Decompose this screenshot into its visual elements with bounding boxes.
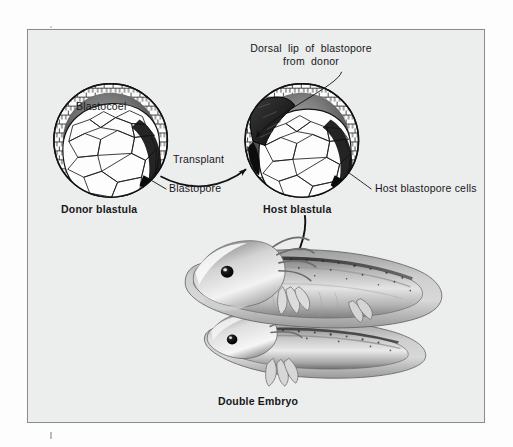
primary-larva-eye-highlight [223, 268, 227, 271]
figure-root: Dorsal lip of blastopore from donor Blas… [0, 0, 513, 447]
label-dorsal-lip-line2: from donor [221, 55, 401, 68]
secondary-larva-forelimb [266, 358, 298, 386]
leader-host-blastopore-cells [347, 171, 372, 189]
label-host-blastula: Host blastula [263, 203, 332, 216]
label-blastocoel: Blastocoel [76, 100, 126, 113]
primary-larva [185, 237, 442, 328]
secondary-larva-eye [227, 334, 238, 344]
stray-mark-bottom [50, 432, 52, 439]
label-double-embryo: Double Embryo [173, 395, 343, 408]
primary-larva-eye [221, 266, 234, 278]
double-embryo-illustration [185, 237, 442, 386]
diagram-canvas [28, 30, 484, 422]
label-donor-blastula: Donor blastula [61, 203, 137, 216]
secondary-larva-eye-highlight [229, 337, 232, 340]
label-host-blastopore-cells: Host blastopore cells [375, 182, 477, 195]
figure-frame: Dorsal lip of blastopore from donor Blas… [27, 29, 485, 423]
label-blastopore: Blastopore [169, 182, 221, 195]
label-transplant: Transplant [173, 153, 224, 166]
label-dorsal-lip-line1: Dorsal lip of blastopore [221, 42, 401, 55]
leader-blastopore [149, 179, 166, 189]
primary-larva-head [193, 241, 285, 307]
